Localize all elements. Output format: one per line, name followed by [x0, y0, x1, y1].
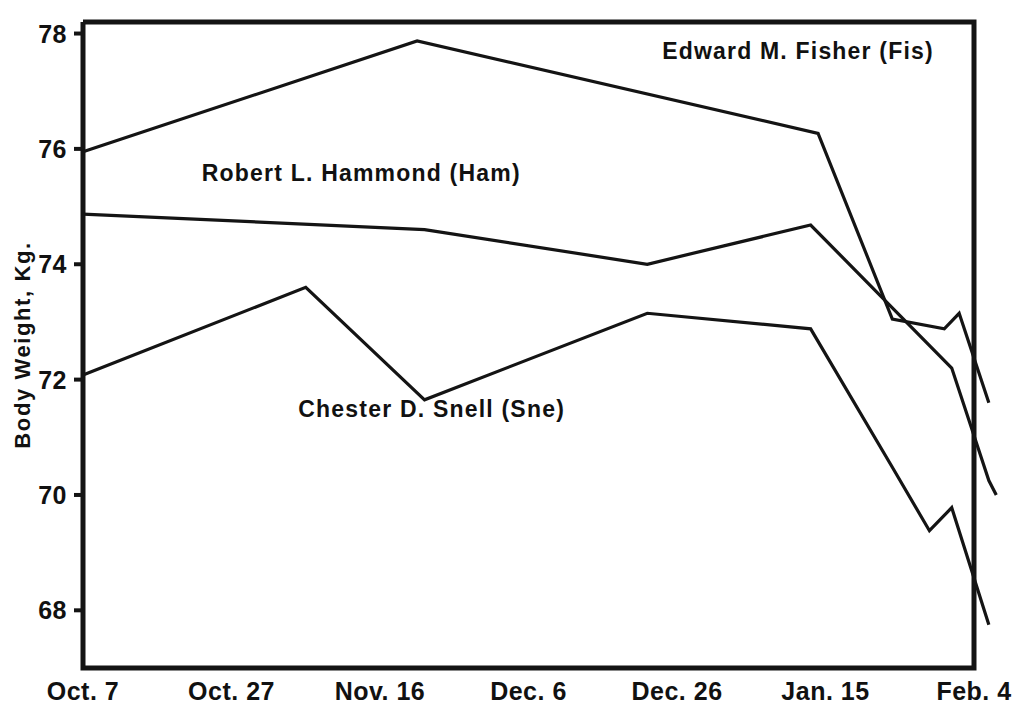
x-tick-label: Dec. 26 [631, 677, 722, 705]
plot-frame [83, 22, 974, 668]
x-tick-label: Oct. 7 [47, 677, 119, 705]
x-axis-tick-labels: Oct. 7Oct. 27Nov. 16Dec. 6Dec. 26Jan. 15… [47, 677, 1012, 705]
chart-container: 787674727068 Oct. 7Oct. 27Nov. 16Dec. 6D… [0, 0, 1013, 714]
y-axis-tick-labels: 787674727068 [38, 20, 67, 625]
x-tick-label: Jan. 15 [781, 677, 869, 705]
series-line-sne [83, 287, 989, 624]
x-tick-label: Dec. 6 [490, 677, 567, 705]
series-lines-group [83, 41, 996, 625]
y-tick-label: 74 [38, 250, 67, 278]
series-label-fis: Edward M. Fisher (Fis) [662, 38, 934, 64]
y-tick-label: 78 [38, 20, 67, 48]
line-chart: 787674727068 Oct. 7Oct. 27Nov. 16Dec. 6D… [0, 0, 1013, 714]
series-label-ham: Robert L. Hammond (Ham) [202, 160, 521, 186]
y-tick-label: 76 [38, 135, 67, 163]
x-tick-label: Nov. 16 [335, 677, 426, 705]
y-axis-title: Body Weight, Kg. [10, 241, 35, 448]
y-tick-label: 68 [38, 596, 67, 624]
x-tick-label: Feb. 4 [936, 677, 1011, 705]
y-tick-label: 72 [38, 366, 67, 394]
series-label-sne: Chester D. Snell (Sne) [298, 396, 565, 422]
y-tick-label: 70 [38, 481, 67, 509]
x-tick-label: Oct. 27 [188, 677, 275, 705]
series-labels-group: Edward M. Fisher (Fis)Robert L. Hammond … [202, 38, 934, 422]
